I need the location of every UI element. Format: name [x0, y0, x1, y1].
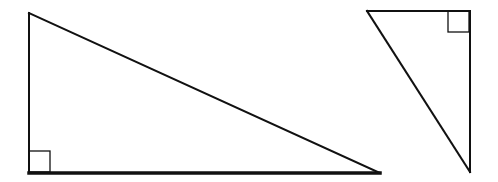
triangle-edge	[367, 11, 470, 172]
left-right-triangle	[29, 13, 380, 173]
right-angle-marker-icon	[448, 11, 469, 32]
right-angle-marker-icon	[29, 151, 50, 172]
right-right-triangle	[367, 11, 470, 172]
diagram-canvas	[0, 0, 498, 182]
triangle-edge	[29, 13, 380, 173]
